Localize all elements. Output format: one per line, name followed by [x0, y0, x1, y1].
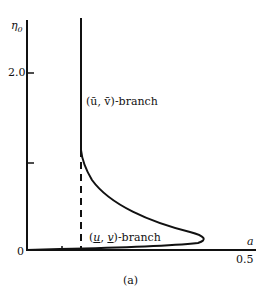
y-axis-label-eta: η	[11, 19, 18, 32]
branch-curve	[27, 18, 204, 250]
figure-caption: (a)	[123, 275, 138, 286]
x-axis-label: a	[247, 236, 254, 247]
y-axis-label: η0	[11, 20, 23, 34]
x-tick-label-05: 0.5	[236, 254, 254, 265]
lower-branch-suffix: )-branch	[114, 231, 161, 244]
plot-area	[0, 0, 267, 299]
origin-label: 0	[17, 246, 24, 257]
upper-branch-annotation: (ū, v̄)-branch	[86, 96, 158, 107]
lower-branch-annotation: (u, v)-branch	[89, 232, 161, 243]
y-tick-label-2: 2.0	[8, 67, 26, 78]
y-axis-label-sub: 0	[18, 25, 23, 34]
